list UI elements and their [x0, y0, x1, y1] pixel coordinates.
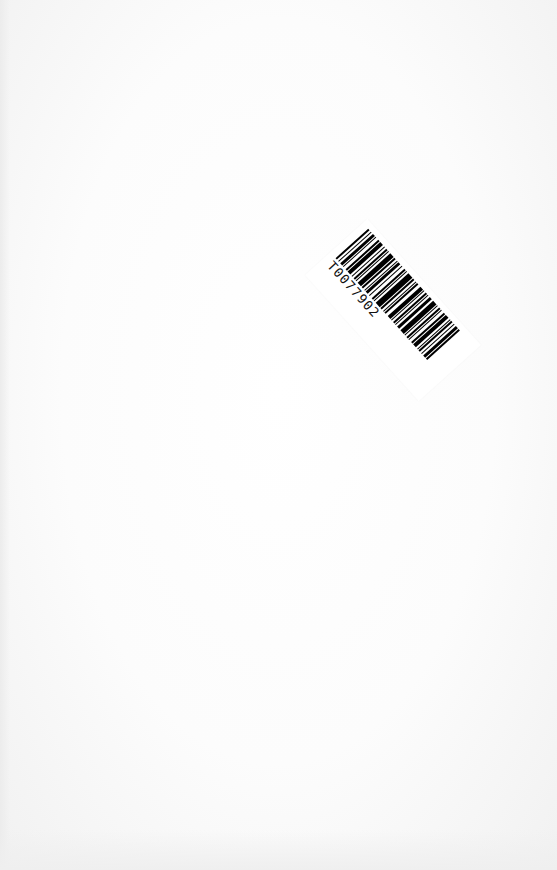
page-edge-shadow-left [0, 0, 10, 870]
barcode-sticker: T0077902 [305, 219, 481, 402]
scanned-page: T0077902 [0, 0, 557, 870]
page-edge-shadow-bottom [0, 830, 557, 870]
